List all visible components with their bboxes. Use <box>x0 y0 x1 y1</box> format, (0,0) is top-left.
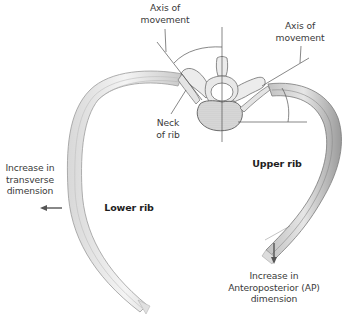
ap-dimension-label: Increase in Anteroposterior (AP) dimensi… <box>226 270 322 305</box>
axis-of-movement-right-label: Axis of movement <box>274 20 326 43</box>
thoracic-vertebra <box>178 57 270 131</box>
label-line: of rib <box>150 129 186 141</box>
label-line: transverse <box>4 174 56 186</box>
transverse-dimension-label: Increase in transverse dimension <box>4 162 56 197</box>
upper-rib-label: Upper rib <box>252 158 302 170</box>
lower-rib-label: Lower rib <box>104 202 154 214</box>
lower-rib-bone <box>67 71 183 314</box>
label-line: Axis of <box>140 2 190 14</box>
right-axis-leader <box>300 46 301 63</box>
left-axis-leader <box>165 29 166 52</box>
label-line: dimension <box>4 185 56 197</box>
label-line: movement <box>140 14 190 26</box>
left-angle-arc <box>174 47 222 63</box>
label-line: Neck <box>150 117 186 129</box>
label-line: Increase in <box>226 270 322 282</box>
label-line: Anteroposterior (AP) <box>226 282 322 294</box>
upper-rib-bone <box>262 83 341 264</box>
right-axis-of-movement <box>262 58 309 86</box>
neck-of-rib-label: Neck of rib <box>150 117 186 140</box>
axis-of-movement-left-label: Axis of movement <box>140 2 190 25</box>
left-arrow-icon <box>40 205 62 211</box>
label-line: Axis of <box>274 20 326 32</box>
neck-of-rib-leader <box>171 90 186 114</box>
label-line: Increase in <box>4 162 56 174</box>
rib-movement-diagram: Axis of movement Axis of movement Neck o… <box>0 0 346 318</box>
label-line: dimension <box>226 293 322 305</box>
label-line: movement <box>274 32 326 44</box>
